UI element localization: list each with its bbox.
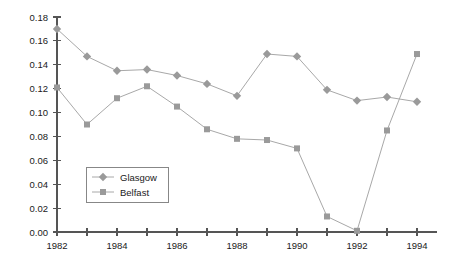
- legend-marker-square: [100, 189, 106, 195]
- y-tick-label: 0.06: [30, 155, 49, 166]
- data-point-belfast: [54, 84, 60, 90]
- data-point-glasgow: [143, 65, 151, 73]
- y-tick-label: 0.16: [30, 35, 49, 46]
- data-point-glasgow: [383, 93, 391, 101]
- x-tick-label: 1992: [346, 240, 367, 251]
- y-tick-label: 0.02: [30, 203, 49, 214]
- data-point-belfast: [324, 213, 330, 219]
- data-point-glasgow: [173, 71, 181, 79]
- series-glasgow: [53, 25, 421, 106]
- data-point-glasgow: [113, 67, 121, 75]
- data-point-glasgow: [263, 50, 271, 58]
- chart-container: 0.000.020.040.060.080.100.120.140.160.18…: [0, 0, 453, 255]
- legend-label: Glasgow: [120, 172, 157, 183]
- x-tick-label: 1988: [226, 240, 247, 251]
- line-chart: 0.000.020.040.060.080.100.120.140.160.18…: [0, 0, 453, 255]
- y-tick-label: 0.10: [30, 107, 49, 118]
- data-point-belfast: [204, 126, 210, 132]
- y-tick-label: 0.14: [30, 59, 49, 70]
- y-tick-label: 0.08: [30, 131, 49, 142]
- data-point-belfast: [144, 83, 150, 89]
- data-point-belfast: [354, 228, 360, 234]
- data-point-belfast: [84, 122, 90, 128]
- data-point-glasgow: [203, 80, 211, 88]
- data-point-glasgow: [353, 96, 361, 104]
- x-tick-label: 1986: [166, 240, 187, 251]
- x-tick-label: 1982: [46, 240, 67, 251]
- data-point-glasgow: [233, 92, 241, 100]
- series-line-belfast: [57, 54, 417, 231]
- y-tick-label: 0.18: [30, 12, 49, 23]
- data-point-belfast: [234, 136, 240, 142]
- y-tick-label: 0.00: [30, 227, 49, 238]
- x-tick-label: 1990: [286, 240, 307, 251]
- data-point-belfast: [174, 104, 180, 110]
- y-axis-ticks: 0.000.020.040.060.080.100.120.140.160.18: [30, 12, 62, 238]
- series-belfast: [54, 51, 420, 234]
- data-point-glasgow: [413, 98, 421, 106]
- data-point-belfast: [414, 51, 420, 57]
- chart-legend: GlasgowBelfast: [86, 167, 168, 202]
- data-point-belfast: [264, 137, 270, 143]
- series-line-glasgow: [57, 29, 417, 102]
- legend-label: Belfast: [120, 187, 149, 198]
- data-point-belfast: [114, 95, 120, 101]
- y-tick-label: 0.04: [30, 179, 49, 190]
- y-tick-label: 0.12: [30, 83, 49, 94]
- x-tick-label: 1994: [406, 240, 427, 251]
- x-tick-label: 1984: [106, 240, 127, 251]
- data-point-belfast: [384, 127, 390, 133]
- data-point-belfast: [294, 145, 300, 151]
